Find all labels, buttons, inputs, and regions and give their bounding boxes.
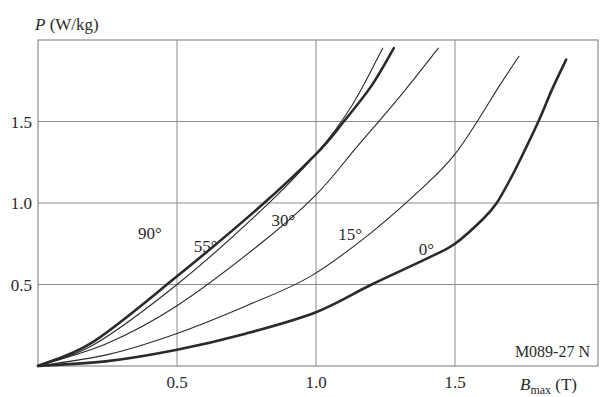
series-labels: 0°15°30°55°90° bbox=[138, 211, 434, 259]
x-tick-label: 1.0 bbox=[305, 373, 326, 392]
series-label: 90° bbox=[138, 224, 162, 243]
x-tick-label: 1.5 bbox=[444, 373, 465, 392]
y-tick-label: 1.0 bbox=[11, 194, 32, 213]
loss-curve-chart: 0°15°30°55°90° 0.51.01.50.51.01.5 P (W/k… bbox=[0, 0, 610, 397]
x-axis-label: Bmax (T) bbox=[520, 375, 577, 397]
series-label: 55° bbox=[194, 237, 218, 256]
series-lines bbox=[38, 48, 566, 366]
series-line bbox=[38, 48, 383, 366]
series-line bbox=[38, 48, 438, 366]
series-label: 0° bbox=[419, 240, 434, 259]
grid bbox=[38, 40, 598, 366]
material-grade-annotation: M089-27 N bbox=[515, 343, 591, 360]
y-axis-label: P (W/kg) bbox=[34, 15, 99, 34]
x-tick-label: 0.5 bbox=[166, 373, 187, 392]
series-label: 30° bbox=[272, 211, 296, 230]
series-label: 15° bbox=[338, 225, 362, 244]
y-tick-label: 0.5 bbox=[11, 276, 32, 295]
y-tick-label: 1.5 bbox=[11, 113, 32, 132]
